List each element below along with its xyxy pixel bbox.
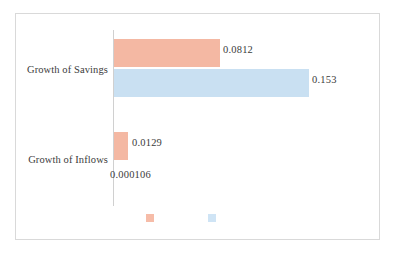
data-label-savings-series2: 0.153 bbox=[312, 74, 337, 85]
chart-frame: 0.0812 0.153 Growth of Savings 0.0129 0.… bbox=[15, 13, 380, 240]
data-label-inflows-series1: 0.0129 bbox=[132, 137, 162, 148]
data-label-inflows-series2: 0.000106 bbox=[110, 169, 151, 180]
legend-swatch-pink-icon bbox=[146, 214, 154, 222]
bar-savings-series2[interactable] bbox=[114, 69, 309, 97]
legend-swatch-blue-icon bbox=[208, 214, 216, 222]
plot-area: 0.0812 0.153 Growth of Savings 0.0129 0.… bbox=[16, 14, 381, 241]
legend-entry-series1[interactable] bbox=[146, 214, 154, 222]
data-label-savings-series1: 0.0812 bbox=[223, 44, 253, 55]
chart-legend bbox=[126, 214, 246, 228]
bar-inflows-series1[interactable] bbox=[114, 132, 128, 160]
chart-figure: 0.0812 0.153 Growth of Savings 0.0129 0.… bbox=[0, 0, 395, 253]
legend-entry-series2[interactable] bbox=[208, 214, 216, 222]
bar-savings-series1[interactable] bbox=[114, 39, 220, 67]
category-label-growth-of-inflows: Growth of Inflows bbox=[16, 154, 108, 165]
category-label-growth-of-savings: Growth of Savings bbox=[16, 64, 108, 75]
